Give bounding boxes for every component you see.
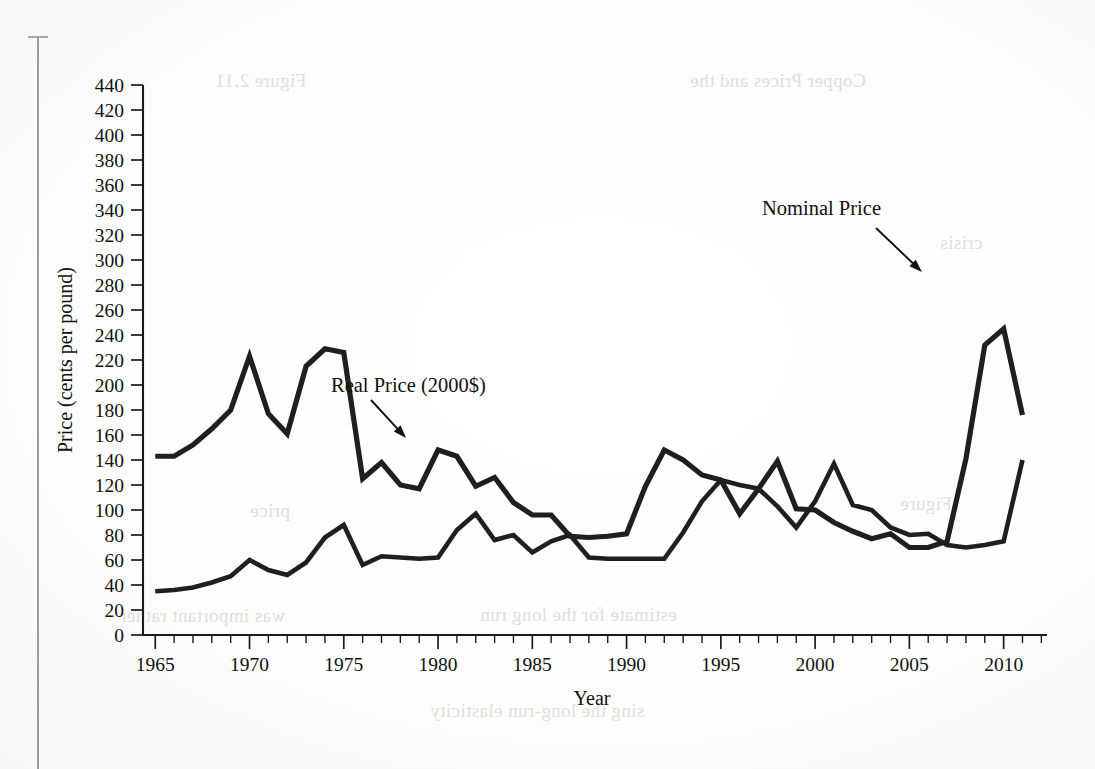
chart-annotations: Nominal PriceReal Price (2000$): [331, 197, 922, 438]
chart-figure: 0204060801001201401601802002202402602803…: [0, 0, 1095, 769]
y-tick-label: 160: [95, 425, 124, 446]
y-axis-ticks: [131, 85, 143, 635]
y-axis-title: Price (cents per pound): [54, 267, 77, 453]
y-tick-label: 340: [95, 200, 124, 221]
x-tick-label: 1970: [230, 654, 269, 675]
real-price-line: [155, 460, 1022, 591]
y-tick-label: 20: [105, 600, 125, 621]
x-tick-label: 2005: [890, 654, 929, 675]
y-tick-label: 300: [95, 250, 124, 271]
x-axis-tick-labels: 1965197019751980198519901995200020052010: [136, 654, 1023, 675]
x-tick-label: 1985: [513, 654, 552, 675]
annotation-arrow-shaft: [371, 400, 400, 431]
y-tick-label: 360: [95, 175, 124, 196]
x-tick-label: 2000: [796, 654, 835, 675]
x-tick-label: 1990: [607, 654, 646, 675]
y-tick-label: 440: [95, 75, 124, 96]
x-tick-label: 1995: [701, 654, 740, 675]
price-line-chart: 0204060801001201401601802002202402602803…: [0, 0, 1095, 769]
y-tick-label: 320: [95, 225, 124, 246]
y-tick-label: 120: [95, 475, 124, 496]
x-tick-label: 2010: [984, 654, 1023, 675]
y-tick-label: 140: [95, 450, 124, 471]
series-group: [155, 329, 1022, 592]
y-tick-label: 80: [105, 525, 125, 546]
nominal-price-line: [155, 329, 1022, 548]
y-tick-label: 200: [95, 375, 124, 396]
y-tick-label: 220: [95, 350, 124, 371]
y-tick-label: 240: [95, 325, 124, 346]
y-tick-label: 400: [95, 125, 124, 146]
y-tick-label: 380: [95, 150, 124, 171]
y-tick-label: 100: [95, 500, 124, 521]
y-tick-label: 180: [95, 400, 124, 421]
y-tick-label: 280: [95, 275, 124, 296]
x-axis-ticks: [155, 635, 1041, 649]
y-tick-label: 60: [105, 550, 125, 571]
x-tick-label: 1975: [324, 654, 363, 675]
y-axis-tick-labels: 0204060801001201401601802002202402602803…: [95, 75, 124, 646]
x-tick-label: 1980: [419, 654, 458, 675]
y-tick-label: 40: [105, 575, 125, 596]
y-tick-label: 420: [95, 100, 124, 121]
axes-group: [131, 85, 1047, 649]
x-tick-label: 1965: [136, 654, 175, 675]
annotation-label: Nominal Price: [762, 197, 881, 219]
annotation-arrow-shaft: [876, 228, 915, 266]
x-axis-title: Year: [574, 687, 611, 709]
annotation-label: Real Price (2000$): [331, 374, 486, 397]
y-tick-label: 260: [95, 300, 124, 321]
y-tick-label: 0: [114, 625, 124, 646]
